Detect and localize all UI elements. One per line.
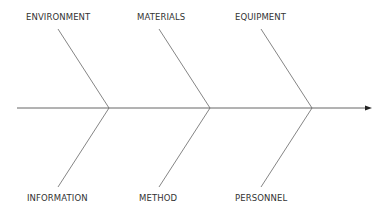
label-personnel: PERSONNEL [235,193,287,203]
branch-information [58,108,109,187]
label-equipment: EQUIPMENT [235,12,286,22]
spine-arrowhead [365,106,372,111]
label-information: INFORMATION [27,193,88,203]
fishbone-diagram [0,0,390,211]
branch-method [159,108,210,187]
branch-equipment [261,29,312,108]
label-environment: ENVIRONMENT [26,12,90,22]
branch-personnel [261,108,312,187]
label-method: METHOD [139,193,177,203]
branch-environment [58,29,109,108]
branch-materials [159,29,210,108]
label-materials: MATERIALS [137,12,185,22]
